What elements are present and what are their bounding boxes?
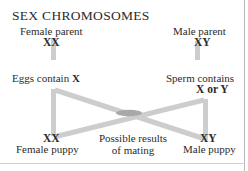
eggs-contain-text: Eggs contain (12, 72, 72, 84)
results-caption: Possible results of mating (94, 132, 172, 157)
connector-eggs-to-female-puppy (51, 89, 56, 136)
results-line-1: Possible results (99, 132, 167, 144)
male-parent-genotype: XY (194, 36, 211, 49)
frame-right-rule (244, 0, 245, 171)
female-puppy-label: Female puppy (16, 143, 79, 155)
frame-bottom-rule (0, 163, 245, 164)
connector-crossing-point (116, 110, 142, 116)
eggs-allele: X (72, 72, 80, 84)
sex-chromosomes-diagram: SEX CHROMOSOMES Female parent XX Male pa… (0, 0, 248, 171)
diagram-title: SEX CHROMOSOMES (12, 8, 150, 23)
eggs-contain-row: Eggs contain X (12, 72, 80, 84)
male-puppy-label: Male puppy (183, 143, 236, 155)
results-line-2: of mating (94, 144, 172, 156)
sperm-allele: X or Y (196, 83, 229, 96)
female-parent-genotype: XX (43, 36, 60, 49)
